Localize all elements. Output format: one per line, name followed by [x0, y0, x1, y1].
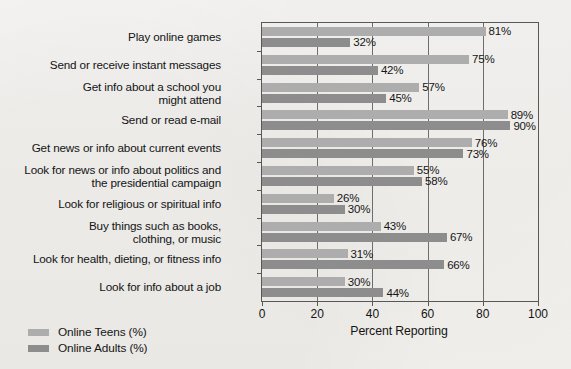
- bar-value-label: 44%: [386, 287, 408, 298]
- x-axis-tick-40: [372, 301, 373, 306]
- bar-value-label: 81%: [489, 26, 511, 37]
- bar-value-label: 66%: [447, 259, 469, 270]
- y-axis-tick-1: [257, 51, 262, 52]
- legend-label-online-teens: Online Teens (%): [58, 326, 147, 339]
- category-label: Send or receive instant messages: [0, 58, 221, 71]
- category-label-line: Look for religious or spiritual info: [0, 197, 221, 210]
- category-label-line: Get info about a school you: [0, 79, 221, 92]
- bar-value-label: 90%: [513, 120, 535, 131]
- category-label-line: Buy things such as books,: [0, 218, 221, 231]
- legend-item-online-teens: Online Teens (%): [28, 325, 147, 340]
- bar-value-label: 58%: [425, 176, 447, 187]
- bar-value-label: 75%: [472, 54, 494, 65]
- y-axis-tick-5: [257, 162, 262, 163]
- x-axis-tick-label-80: 80: [476, 307, 489, 321]
- bar-teens: [262, 222, 381, 231]
- category-label: Get news or info about current events: [0, 141, 221, 154]
- bar-adults: [262, 66, 378, 75]
- bar-value-label: 32%: [353, 37, 375, 48]
- x-axis-tick-label-40: 40: [366, 307, 379, 321]
- category-label: Buy things such as books,clothing, or mu…: [0, 218, 221, 244]
- y-axis-tick-7: [257, 218, 262, 219]
- bar-adults: [262, 149, 463, 158]
- bar-value-label: 45%: [389, 93, 411, 104]
- bar-teens: [262, 249, 348, 258]
- category-label: Send or read e-mail: [0, 114, 221, 127]
- category-label-line: Send or receive instant messages: [0, 58, 221, 71]
- gridline-20: [317, 23, 318, 301]
- category-label: Look for info about a job: [0, 280, 221, 293]
- x-axis-tick-label-20: 20: [311, 307, 324, 321]
- category-label-line: Get news or info about current events: [0, 141, 221, 154]
- legend-swatch-online-adults: [28, 345, 49, 352]
- bar-teens: [262, 194, 334, 203]
- bar-value-label: 42%: [381, 65, 403, 76]
- bar-value-label: 73%: [466, 148, 488, 159]
- bar-value-label: 43%: [384, 221, 406, 232]
- bar-adults: [262, 288, 383, 297]
- x-axis-tick-label-100: 100: [528, 307, 548, 321]
- bar-value-label: 30%: [348, 276, 370, 287]
- legend-label-online-adults: Online Adults (%): [58, 342, 147, 355]
- y-axis-tick-6: [257, 190, 262, 191]
- category-label-line: Play online games: [0, 30, 221, 43]
- bar-adults: [262, 121, 510, 130]
- category-label-line: clothing, or music: [0, 232, 221, 245]
- bar-teens: [262, 110, 508, 119]
- category-label: Look for news or info about politics and…: [0, 163, 221, 189]
- x-axis-tick-100: [538, 301, 539, 306]
- x-axis-tick-0: [262, 301, 263, 306]
- category-label: Look for health, dieting, or fitness inf…: [0, 253, 221, 266]
- y-axis-tick-3: [257, 106, 262, 107]
- bar-teens: [262, 166, 414, 175]
- category-label: Play online games: [0, 30, 221, 43]
- y-axis-tick-9: [257, 273, 262, 274]
- category-label: Get info about a school youmight attend: [0, 79, 221, 105]
- bar-value-label: 30%: [348, 204, 370, 215]
- bar-value-label: 31%: [351, 248, 373, 259]
- category-label-line: might attend: [0, 93, 221, 106]
- x-axis-tick-label-0: 0: [259, 307, 266, 321]
- chart-legend: Online Teens (%) Online Adults (%): [28, 325, 147, 357]
- gridline-60: [428, 23, 429, 301]
- category-label-line: Look for health, dieting, or fitness inf…: [0, 253, 221, 266]
- bar-value-label: 57%: [422, 82, 444, 93]
- x-axis-tick-label-60: 60: [421, 307, 434, 321]
- bar-adults: [262, 38, 350, 47]
- x-axis-tick-20: [317, 301, 318, 306]
- bar-value-label: 67%: [450, 232, 472, 243]
- bar-adults: [262, 260, 444, 269]
- y-axis-tick-8: [257, 245, 262, 246]
- bar-adults: [262, 205, 345, 214]
- bar-adults: [262, 233, 447, 242]
- bar-teens: [262, 55, 469, 64]
- x-axis-title: Percent Reporting: [261, 324, 537, 338]
- legend-swatch-online-teens: [28, 329, 49, 336]
- gridline-40: [372, 23, 373, 301]
- y-axis-tick-4: [257, 134, 262, 135]
- chart-page: 020406080100Play online games81%32%Send …: [0, 0, 571, 369]
- bar-teens: [262, 277, 345, 286]
- bar-adults: [262, 177, 422, 186]
- bar-teens: [262, 27, 486, 36]
- legend-item-online-adults: Online Adults (%): [28, 341, 147, 356]
- category-label-line: Look for news or info about politics and: [0, 163, 221, 176]
- gridline-80: [483, 23, 484, 301]
- category-label-line: Look for info about a job: [0, 280, 221, 293]
- bar-teens: [262, 83, 419, 92]
- category-label-line: the presidential campaign: [0, 176, 221, 189]
- category-label: Look for religious or spiritual info: [0, 197, 221, 210]
- bar-teens: [262, 138, 472, 147]
- y-axis-tick-2: [257, 79, 262, 80]
- x-axis-tick-80: [483, 301, 484, 306]
- category-label-line: Send or read e-mail: [0, 114, 221, 127]
- plot-area: 020406080100Play online games81%32%Send …: [261, 22, 539, 302]
- x-axis-tick-60: [428, 301, 429, 306]
- bar-adults: [262, 94, 386, 103]
